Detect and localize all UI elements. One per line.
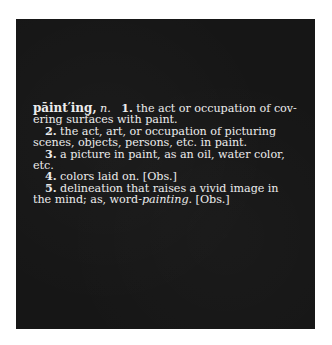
sense-example-italic: painting bbox=[142, 193, 189, 206]
dictionary-definition: pāint′ing, n. 1. the act or occupation o… bbox=[33, 103, 305, 206]
definition-line: 3. a picture in paint, as an oil, water … bbox=[33, 149, 305, 160]
definition-line: the mind; as, word-painting. [Obs.] bbox=[33, 194, 305, 205]
sense-text: . [Obs.] bbox=[189, 193, 230, 206]
black-canvas-artwork: pāint′ing, n. 1. the act or occupation o… bbox=[16, 19, 315, 329]
sense-text: a picture in paint, as an oil, water col… bbox=[60, 148, 285, 161]
sense-text: the mind; as, word- bbox=[33, 193, 142, 206]
